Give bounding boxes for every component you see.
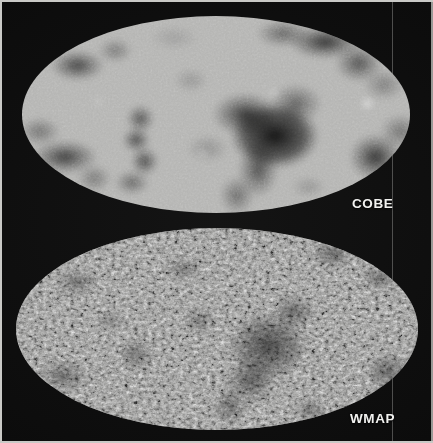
- wmap-limb-darkening: [16, 228, 418, 430]
- wmap-mollweide-ellipse: [16, 228, 418, 430]
- wmap-sky-map: [16, 228, 418, 430]
- cobe-map-label: COBE: [352, 196, 393, 211]
- cobe-limb-darkening: [22, 16, 410, 213]
- cmb-sky-maps-figure: COBE: [0, 0, 433, 443]
- wmap-map-label: WMAP: [350, 411, 395, 426]
- cobe-sky-map: [22, 16, 410, 213]
- cobe-mollweide-ellipse: [22, 16, 410, 213]
